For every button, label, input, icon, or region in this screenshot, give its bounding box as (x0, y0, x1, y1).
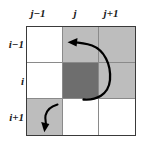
row-label-i-plus-1: i+1 (0, 112, 24, 123)
row-label-i-minus-1: i−1 (0, 39, 24, 50)
column-label-j: j (55, 8, 95, 19)
grid-cell-i-jp1 (99, 63, 135, 99)
grid-cell-ip1-jm1 (27, 99, 63, 135)
column-label-j-plus-1: j+1 (91, 8, 131, 19)
grid-cell-im1-jm1 (27, 27, 63, 63)
grid-cell-i-jm1 (27, 63, 63, 99)
column-label-j-minus-1: j−1 (18, 8, 58, 19)
grid-cell-im1-j (63, 27, 99, 63)
grid-cell-ip1-j (63, 99, 99, 135)
cell-grid (26, 26, 136, 136)
row-label-i: i (0, 76, 24, 87)
grid-cell-im1-jp1 (99, 27, 135, 63)
grid-stencil-figure: j−1 j j+1 i−1 i i+1 (0, 0, 142, 141)
grid-cell-ip1-jp1 (99, 99, 135, 135)
grid-cell-i-j (63, 63, 99, 99)
